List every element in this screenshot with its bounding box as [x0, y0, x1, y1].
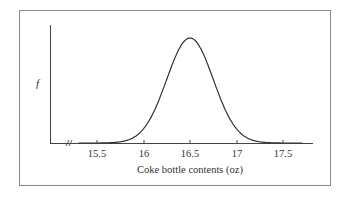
x-axis-label: Coke bottle contents (oz) — [137, 164, 243, 175]
x-tick-label: 16 — [139, 148, 150, 159]
y-axis-label: f — [36, 77, 39, 89]
x-tick-label: 17 — [232, 148, 243, 159]
x-tick-label: 15.5 — [88, 148, 106, 159]
x-tick-label: 16.5 — [181, 148, 199, 159]
density-curve — [78, 38, 302, 143]
x-tick-label: 17.5 — [274, 148, 292, 159]
